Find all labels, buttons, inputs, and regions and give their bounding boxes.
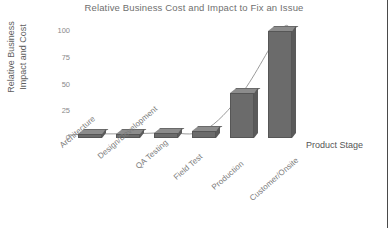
x-axis-category-label: Production	[210, 159, 246, 192]
x-axis-category-label: Architecture	[58, 114, 97, 150]
x-axis-category-label: Customer/Onsite	[248, 155, 300, 202]
x-axis-category-labels: ArchitectureDesign/DevelopmentQA Testing…	[0, 0, 388, 228]
x-axis-title: Product Stage	[306, 140, 363, 150]
chart-container: Relative Business Cost and Impact to Fix…	[0, 0, 388, 228]
x-axis-category-label: QA Testing	[134, 138, 170, 171]
x-axis-category-label: Field Test	[172, 151, 204, 181]
